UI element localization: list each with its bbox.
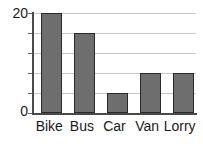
bar-bus (74, 33, 95, 113)
y-axis-label-bottom: 0 (20, 104, 28, 118)
bar-bike (41, 13, 62, 113)
bar-chart: 20 0 Bike Bus Car Van Lorry (0, 0, 203, 148)
y-axis-label-top: 20 (12, 6, 28, 20)
y-axis-labels: 20 0 (0, 0, 28, 148)
bar-van (140, 73, 161, 113)
y-axis-line (32, 12, 34, 114)
plot-area (33, 13, 196, 113)
x-axis-line (32, 113, 197, 115)
bar-car (107, 93, 128, 113)
x-label-bike: Bike (33, 116, 66, 140)
x-label-lorry: Lorry (163, 116, 196, 140)
x-label-bus: Bus (66, 116, 99, 140)
bar-lorry (173, 73, 194, 113)
x-label-van: Van (131, 116, 164, 140)
x-axis-labels: Bike Bus Car Van Lorry (33, 116, 196, 140)
x-label-car: Car (98, 116, 131, 140)
